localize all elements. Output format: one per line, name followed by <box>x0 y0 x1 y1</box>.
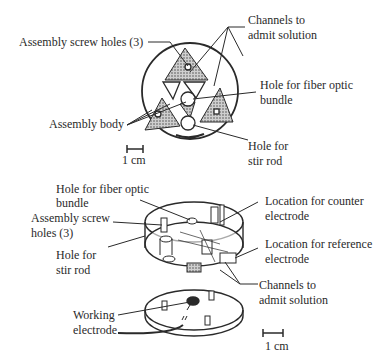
label-counter-electrode-1: Location for counter <box>265 194 364 208</box>
label-working-electrode-1: Working <box>73 308 115 322</box>
top-scale-bar <box>127 145 143 153</box>
lower-disk <box>118 290 243 336</box>
label-reference-electrode-1: Location for reference <box>265 237 372 251</box>
label-stir-hole-exploded-1: Hole for <box>56 248 96 262</box>
label-scale-top: 1 cm <box>122 153 146 167</box>
label-channels-top-1: Channels to <box>248 13 305 27</box>
bottom-scale-bar <box>263 329 283 337</box>
label-fiber-hole-exploded-1: Hole for fiber optic <box>56 182 149 196</box>
label-stir-hole-exploded-2: stir rod <box>56 263 90 277</box>
label-screw-holes-exploded-2: holes (3) <box>31 226 73 240</box>
label-fiber-hole-top-1: Hole for fiber optic <box>260 78 353 92</box>
label-working-electrode-2: electrode <box>73 323 117 337</box>
label-screw-holes-exploded-1: Assembly screw <box>31 211 110 225</box>
label-stir-hole-top-2: stir rod <box>248 154 282 168</box>
label-channels-exploded-1: Channels to <box>259 278 316 292</box>
label-fiber-hole-top-2: bundle <box>260 93 293 107</box>
label-reference-electrode-2: electrode <box>265 252 309 266</box>
label-stir-hole-top-1: Hole for <box>248 139 288 153</box>
label-scale-exploded: 1 cm <box>265 339 289 353</box>
label-assembly-body: Assembly body <box>49 117 124 131</box>
electrochemical-cell-diagram: Channels to admit solution Assembly scre… <box>0 0 390 364</box>
label-channels-top-2: admit solution <box>248 28 317 42</box>
label-fiber-hole-exploded-2: bundle <box>56 196 89 210</box>
top-view-assembly <box>142 43 238 139</box>
label-channels-exploded-2: admit solution <box>259 293 328 307</box>
label-screw-holes-top: Assembly screw holes (3) <box>19 35 143 49</box>
label-counter-electrode-2: electrode <box>265 209 309 223</box>
upper-cylinder <box>145 202 243 272</box>
